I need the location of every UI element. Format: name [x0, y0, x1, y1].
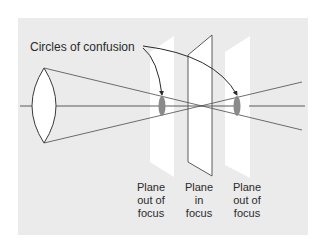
plane-label-near-line-3: focus [138, 207, 165, 219]
plane-label-center-line-1: Plane [185, 181, 213, 193]
circles-of-confusion-label: Circles of confusion [30, 40, 135, 54]
plane-label-near-line-1: Plane [137, 181, 165, 193]
plane-label-center-line-3: focus [186, 207, 213, 219]
plane-label-far-line-3: focus [234, 207, 261, 219]
plane-label-near: Plane out of focus [137, 181, 166, 219]
plane-label-near-line-2: out of [137, 194, 165, 206]
circle-of-confusion-far [234, 96, 241, 116]
circle-of-confusion-near [159, 96, 166, 116]
circles-of-confusion-diagram: Circles of confusion Plane out of focus … [0, 0, 322, 245]
plane-label-far: Plane out of focus [233, 181, 262, 219]
plane-label-center-line-2: in [195, 194, 204, 206]
plane-label-far-line-1: Plane [233, 181, 261, 193]
plane-label-far-line-2: out of [233, 194, 261, 206]
